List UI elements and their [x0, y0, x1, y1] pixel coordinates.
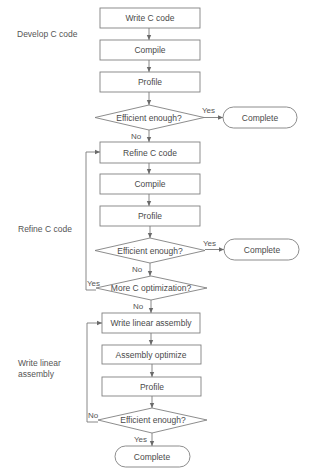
- node-label: Write linear assembly: [110, 318, 192, 328]
- terminal-complete-3: Complete: [115, 446, 190, 467]
- node-write-linear-assembly: Write linear assembly: [102, 313, 200, 333]
- decision-efficient-3: Efficient enough?: [98, 408, 207, 433]
- section-label-linear-2: assembly: [18, 369, 55, 379]
- node-profile-3: Profile: [102, 377, 201, 396]
- node-label: Profile: [140, 382, 164, 392]
- node-label: Profile: [138, 211, 162, 221]
- node-label: Profile: [138, 77, 162, 87]
- loop-edge-linear: [87, 323, 102, 422]
- decision-efficient-1: Efficient enough?: [95, 105, 204, 130]
- edge-label-yes: Yes: [202, 106, 215, 115]
- node-refine-c-code: Refine C code: [100, 142, 200, 163]
- node-profile-2: Profile: [100, 206, 200, 226]
- edge-label-no: No: [133, 302, 144, 311]
- terminal-label: Complete: [134, 452, 171, 462]
- node-label: Compile: [134, 45, 165, 55]
- node-compile-1: Compile: [100, 40, 200, 60]
- flowchart: Develop C code Refine C code Write linea…: [0, 0, 309, 475]
- decision-label: Efficient enough?: [120, 415, 186, 425]
- edge-label-yes: Yes: [134, 435, 147, 444]
- edge-label-no: No: [131, 132, 142, 141]
- node-label: Assembly optimize: [116, 350, 187, 360]
- node-compile-2: Compile: [100, 174, 200, 194]
- node-profile-1: Profile: [100, 72, 200, 92]
- decision-efficient-2: Efficient enough?: [95, 238, 205, 263]
- terminal-complete-1: Complete: [223, 107, 297, 128]
- section-label-linear-1: Write linear: [18, 358, 61, 368]
- section-label-develop: Develop C code: [17, 29, 78, 39]
- decision-more-c-optimization: More C optimization?: [96, 276, 207, 300]
- node-label: Refine C code: [123, 148, 177, 158]
- terminal-label: Complete: [242, 113, 279, 123]
- decision-label: Efficient enough?: [116, 113, 182, 123]
- edge-label-yes: Yes: [87, 279, 100, 288]
- section-label-refine: Refine C code: [18, 224, 72, 234]
- edge-label-no: No: [88, 411, 99, 420]
- edge-label-no: No: [132, 265, 143, 274]
- edge-label-yes: Yes: [203, 239, 216, 248]
- loop-edge-refine: [86, 152, 100, 290]
- node-label: Write C code: [126, 13, 175, 23]
- terminal-complete-2: Complete: [224, 239, 299, 260]
- decision-label: More C optimization?: [111, 283, 192, 293]
- node-label: Compile: [134, 179, 165, 189]
- terminal-label: Complete: [244, 245, 281, 255]
- decision-label: Efficient enough?: [117, 246, 183, 256]
- node-write-c-code: Write C code: [100, 8, 200, 28]
- node-assembly-optimize: Assembly optimize: [102, 345, 201, 364]
